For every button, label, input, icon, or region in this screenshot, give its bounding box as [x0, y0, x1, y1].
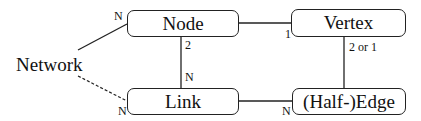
cardinality-network-node: N — [114, 10, 123, 22]
cardinality-node-vertex: 1 — [285, 28, 291, 40]
edge-entity-label: (Half-)Edge — [303, 91, 395, 113]
network-node-line — [78, 24, 127, 50]
cardinality-node-link-n: N — [185, 71, 194, 83]
link-entity-box: Link — [127, 88, 239, 115]
vertex-entity-label: Vertex — [324, 12, 374, 34]
node-entity-box: Node — [127, 10, 239, 37]
cardinality-network-link: N — [118, 105, 127, 117]
network-entity: Network — [16, 54, 82, 76]
node-entity-label: Node — [162, 13, 203, 35]
vertex-entity-box: Vertex — [291, 9, 406, 37]
cardinality-vertex-edge: 2 or 1 — [349, 41, 377, 53]
cardinality-link-edge: N — [282, 105, 291, 117]
edge-entity-box: (Half-)Edge — [292, 88, 406, 115]
cardinality-node-link-2: 2 — [185, 39, 191, 51]
network-link-line — [78, 76, 127, 101]
link-entity-label: Link — [165, 91, 201, 113]
